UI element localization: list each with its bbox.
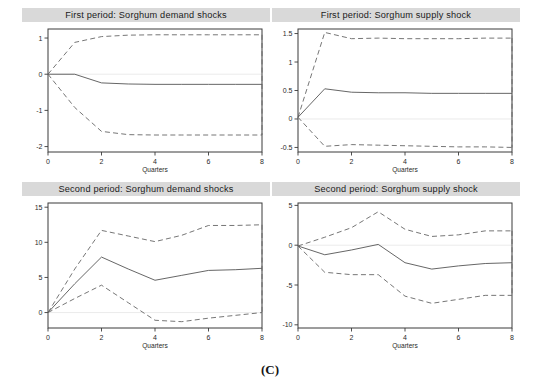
y-tick-label: -10 — [282, 321, 292, 328]
series-line-dashed — [298, 246, 512, 303]
series-line-solid — [298, 244, 512, 269]
x-tick-label: 0 — [296, 158, 300, 165]
chart-panel-first-period-demand: First period: Sorghum demand shocks10-1-… — [22, 8, 270, 178]
y-tick-label: 0 — [289, 115, 293, 122]
x-axis-title: Quarters — [392, 166, 418, 174]
x-tick-label: 0 — [296, 334, 300, 341]
y-tick-label: 15 — [35, 204, 43, 211]
x-tick-label: 0 — [46, 158, 50, 165]
chart-panel-second-period-supply: Second period: Sorghum supply shock50-5-… — [272, 182, 520, 354]
y-tick-label: 0 — [39, 71, 43, 78]
panel-title-first-period-supply: First period: Sorghum supply shock — [272, 8, 520, 22]
x-tick-label: 4 — [403, 158, 407, 165]
plot-frame — [48, 29, 262, 152]
series-line-dashed — [48, 35, 262, 74]
y-tick-label: 5 — [289, 202, 293, 209]
plot-frame — [298, 29, 512, 152]
plot-area-second-period-demand: 15105002468Quarters — [22, 196, 270, 354]
plot-frame — [298, 203, 512, 328]
y-tick-label: 0 — [289, 242, 293, 249]
chart-panel-second-period-demand: Second period: Sorghum demand shocks1510… — [22, 182, 270, 354]
series-line-dashed — [48, 285, 262, 322]
figure-panel-grid: First period: Sorghum demand shocks10-1-… — [0, 0, 540, 384]
panel-title-second-period-demand: Second period: Sorghum demand shocks — [22, 182, 270, 196]
y-tick-label: 10 — [35, 239, 43, 246]
y-tick-label: -2 — [36, 143, 42, 150]
x-tick-label: 6 — [207, 334, 211, 341]
series-line-solid — [48, 257, 262, 312]
x-tick-label: 2 — [100, 334, 104, 341]
y-tick-label: 0 — [39, 309, 43, 316]
y-tick-label: 1.5 — [283, 30, 293, 37]
plot-area-first-period-demand: 10-1-202468Quarters — [22, 22, 270, 178]
x-tick-label: 4 — [153, 158, 157, 165]
series-line-solid — [48, 74, 262, 84]
series-line-dashed — [298, 32, 512, 117]
y-tick-label: 1 — [39, 35, 43, 42]
x-tick-label: 6 — [457, 158, 461, 165]
x-tick-label: 6 — [457, 334, 461, 341]
figure-caption: (C) — [0, 362, 540, 378]
plot-frame — [48, 203, 262, 328]
x-tick-label: 8 — [260, 158, 264, 165]
plot-area-second-period-supply: 50-5-1002468Quarters — [272, 196, 520, 354]
y-tick-label: -1 — [36, 107, 42, 114]
y-tick-label: -5 — [286, 282, 292, 289]
x-axis-title: Quarters — [142, 166, 168, 174]
x-tick-label: 2 — [350, 158, 354, 165]
y-tick-label: 0.5 — [283, 87, 293, 94]
series-line-solid — [298, 89, 512, 117]
x-tick-label: 4 — [403, 334, 407, 341]
series-line-dashed — [48, 74, 262, 135]
chart-panel-first-period-supply: First period: Sorghum supply shock1.510.… — [272, 8, 520, 178]
x-axis-title: Quarters — [142, 342, 168, 350]
series-line-dashed — [298, 212, 512, 246]
x-tick-label: 0 — [46, 334, 50, 341]
panel-title-second-period-supply: Second period: Sorghum supply shock — [272, 182, 520, 196]
y-tick-label: -0.5 — [280, 144, 292, 151]
x-axis-title: Quarters — [392, 342, 418, 350]
panel-title-first-period-demand: First period: Sorghum demand shocks — [22, 8, 270, 22]
x-tick-label: 8 — [260, 334, 264, 341]
x-tick-label: 2 — [100, 158, 104, 165]
plot-area-first-period-supply: 1.510.50-0.502468Quarters — [272, 22, 520, 178]
series-line-dashed — [48, 225, 262, 313]
x-tick-label: 8 — [510, 158, 514, 165]
y-tick-label: 1 — [289, 59, 293, 66]
x-tick-label: 8 — [510, 334, 514, 341]
y-tick-label: 5 — [39, 274, 43, 281]
x-tick-label: 4 — [153, 334, 157, 341]
x-tick-label: 6 — [207, 158, 211, 165]
x-tick-label: 2 — [350, 334, 354, 341]
series-line-dashed — [298, 117, 512, 147]
